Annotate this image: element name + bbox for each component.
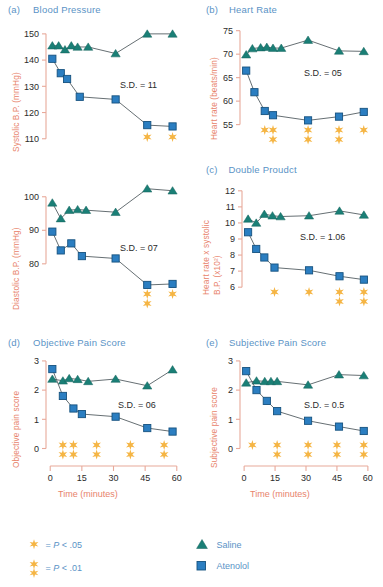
legend-atenolol-label: Atenolol: [217, 561, 250, 571]
panel-a-diastolic: Diastolic B.P. (mmHg) S.D. = 07 8090100: [0, 160, 192, 335]
svg-text:8: 8: [230, 250, 235, 260]
panel-a-title: Blood Pressure: [33, 4, 101, 15]
panel-e-letter: (e): [206, 337, 218, 348]
svg-text:30: 30: [108, 473, 118, 483]
svg-text:130: 130: [24, 82, 39, 92]
panel-a-systolic: (a) Blood Pressure Systolic B.P. (mmHg) …: [0, 0, 192, 170]
svg-text:60: 60: [223, 96, 233, 106]
svg-text:75: 75: [223, 26, 233, 36]
svg-text:0: 0: [242, 473, 247, 483]
svg-text:140: 140: [24, 55, 39, 65]
panel-d-objective-pain: (d) Objective Pain Score Objective pain …: [0, 333, 192, 528]
svg-text:45: 45: [332, 473, 342, 483]
svg-text:100: 100: [24, 192, 39, 202]
legend-p05-text: = P < .05: [46, 540, 83, 550]
svg-text:3: 3: [34, 356, 39, 366]
svg-text:45: 45: [140, 473, 150, 483]
panel-b-title: Heart Rate: [229, 4, 277, 15]
legend-significance-p01: = P < .01: [28, 559, 82, 579]
svg-text:30: 30: [301, 473, 311, 483]
panel-b-heading: (b) Heart Rate: [206, 4, 277, 15]
panel-b-letter: (b): [206, 4, 218, 15]
panel-c-ylabel-line1: Heart rate x systolic: [201, 220, 211, 295]
panel-c-double-product: (c) Double Proudct Heart rate x systolic…: [192, 160, 383, 335]
svg-text:90: 90: [29, 225, 39, 235]
figure-legend: = P < .05 = P < .01 Saline Atenolol: [0, 528, 383, 587]
panel-a-letter: (a): [8, 4, 20, 15]
svg-text:1: 1: [228, 415, 233, 425]
panel-a-plot: 110120130140150: [20, 18, 185, 168]
svg-text:0: 0: [48, 473, 53, 483]
star-double-icon: [28, 559, 40, 579]
figure-root: (a) Blood Pressure Systolic B.P. (mmHg) …: [0, 0, 383, 587]
panel-d-title: Objective Pain Score: [33, 337, 126, 348]
svg-text:120: 120: [24, 108, 39, 118]
star-single-icon: [28, 538, 40, 550]
svg-text:7: 7: [230, 266, 235, 276]
svg-text:55: 55: [223, 120, 233, 130]
svg-text:0: 0: [228, 444, 233, 454]
svg-text:110: 110: [25, 134, 39, 144]
svg-text:2: 2: [34, 385, 39, 395]
panel-c-letter: (c): [206, 164, 218, 175]
panel-c-ylabel-line2: B.P. (x10²): [212, 255, 222, 295]
svg-text:6: 6: [230, 282, 235, 292]
svg-text:150: 150: [24, 29, 39, 39]
svg-text:60: 60: [363, 473, 373, 483]
legend-series-saline: Saline: [195, 538, 242, 550]
svg-text:60: 60: [172, 473, 182, 483]
panel-b-plot: 5560657075: [218, 18, 376, 158]
legend-p01-operator: < .01: [62, 563, 82, 573]
svg-text:70: 70: [223, 49, 233, 59]
panel-d-letter: (d): [8, 337, 20, 348]
panel-e-xlabel: Time (minutes): [250, 489, 310, 499]
panel-d-xlabel: Time (minutes): [58, 489, 118, 499]
square-marker-icon: [195, 559, 209, 571]
panel-a2-plot: 8090100: [20, 170, 185, 320]
panel-c-title: Double Proudct: [229, 164, 297, 175]
panel-e-heading: (e) Subjective Pain Score: [206, 337, 326, 348]
svg-text:9: 9: [230, 234, 235, 244]
svg-text:3: 3: [228, 356, 233, 366]
legend-p01-symbol: P: [53, 563, 59, 573]
svg-text:80: 80: [29, 259, 39, 269]
svg-text:15: 15: [270, 473, 280, 483]
svg-text:10: 10: [225, 218, 235, 228]
svg-text:1: 1: [34, 415, 39, 425]
triangle-marker-icon: [195, 538, 209, 550]
svg-text:0: 0: [34, 444, 39, 454]
panel-a-heading: (a) Blood Pressure: [8, 4, 101, 15]
legend-p05-operator: < .05: [62, 540, 82, 550]
legend-series-atenolol: Atenolol: [195, 559, 249, 571]
legend-p05-symbol: P: [53, 540, 59, 550]
legend-significance-p05: = P < .05: [28, 538, 82, 550]
svg-text:15: 15: [77, 473, 87, 483]
legend-saline-label: Saline: [217, 540, 242, 550]
svg-text:65: 65: [223, 73, 233, 83]
panel-d-heading: (d) Objective Pain Score: [8, 337, 126, 348]
panel-b-heart-rate: (b) Heart Rate Heart rate (beats/min) S.…: [192, 0, 383, 170]
panel-e-title: Subjective Pain Score: [229, 337, 326, 348]
panel-e-subjective-pain: (e) Subjective Pain Score Subjective pai…: [192, 333, 383, 528]
legend-p01-text: = P < .01: [46, 563, 83, 573]
panel-d-plot: 0123015304560: [20, 350, 185, 490]
svg-text:12: 12: [225, 186, 235, 196]
svg-text:11: 11: [226, 202, 235, 212]
svg-text:2: 2: [228, 385, 233, 395]
panel-c-heading: (c) Double Proudct: [206, 164, 297, 175]
panel-c-plot: 6789101112: [222, 178, 376, 318]
panel-e-plot: 0123015304560: [218, 350, 376, 490]
